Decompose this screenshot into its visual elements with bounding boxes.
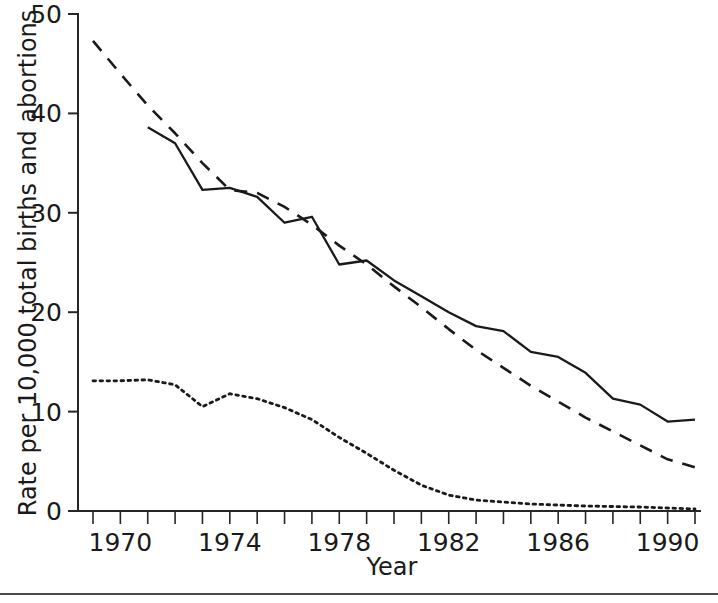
x-tick-label: 1982 [417,528,481,557]
x-tick-label: 1986 [526,528,590,557]
bottom-divider-rule [0,593,718,595]
figure-container: 01020304050 197019741978198219861990 Rat… [0,0,718,603]
line-chart: 01020304050 197019741978198219861990 Rat… [0,0,718,603]
y-tick-label: 0 [46,497,62,526]
x-tick-label: 1990 [636,528,700,557]
series-solid [148,127,695,421]
series-group [93,41,695,509]
x-tick-label: 1970 [89,528,153,557]
x-tick-label: 1978 [307,528,371,557]
x-axis-minor-ticks [93,511,695,524]
x-axis-title: Year [366,553,418,581]
series-dashed [93,41,695,467]
x-tick-label: 1974 [198,528,262,557]
series-dotted [93,380,695,509]
y-axis-title: Rate per 10,000 total births and abortio… [14,10,42,517]
